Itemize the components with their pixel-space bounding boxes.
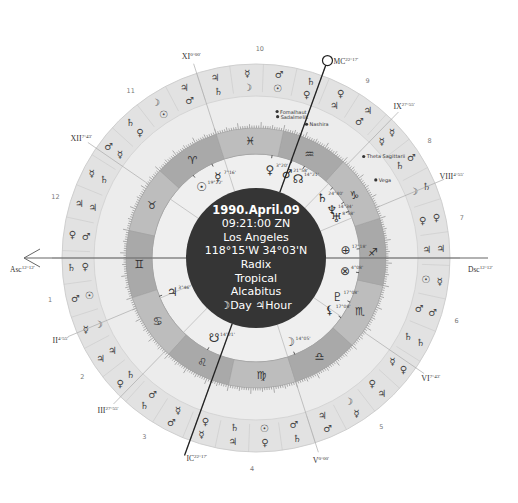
center-info-disc — [186, 188, 326, 328]
decan-glyph-icon: ♃ — [363, 105, 372, 116]
planet-mercury-icon: ☿ — [214, 170, 221, 184]
decan-glyph-icon: ♃ — [75, 198, 84, 209]
decan-glyph-icon: ☿ — [244, 68, 250, 79]
decan-glyph-icon: ☽ — [344, 396, 353, 407]
zodiac-sign-libra-icon: ♎ — [314, 350, 324, 363]
planet-degree-label: 3°46' — [178, 285, 190, 290]
decan-glyph-icon: ♂ — [428, 307, 437, 318]
house-cusp-label: VI7°43' — [421, 374, 440, 383]
decan-glyph-icon: ♂ — [104, 141, 113, 152]
house-number: 4 — [250, 465, 254, 473]
fixed-star-marker — [276, 115, 279, 118]
decan-glyph-icon: ♄ — [306, 76, 315, 87]
planet-sun-icon: ☉ — [196, 180, 207, 194]
decan-glyph-icon: ♃ — [228, 436, 237, 447]
zodiac-sign-aquarius-icon: ♒ — [305, 148, 315, 161]
fixed-star-marker — [276, 110, 279, 113]
planet-degree-label: 14°21' — [304, 172, 319, 177]
decan-glyph-icon: ♄ — [99, 174, 108, 185]
decan-glyph-icon: ☿ — [198, 429, 204, 440]
fixed-star-marker — [362, 155, 365, 158]
house-number: 3 — [142, 433, 146, 441]
planet-moon-icon: ☽ — [284, 335, 295, 349]
decan-glyph-icon: ☿ — [175, 405, 181, 416]
decan-glyph-icon: ♂ — [407, 152, 416, 163]
decan-glyph-icon: ☿ — [378, 136, 384, 147]
decan-glyph-icon: ☿ — [389, 127, 395, 138]
decan-glyph-icon: ☉ — [85, 290, 94, 301]
decan-glyph-icon: ♂ — [185, 95, 194, 106]
planet-degree-label: 14°05' — [296, 336, 311, 341]
zodiac-sign-taurus-icon: ♉ — [147, 199, 157, 212]
decan-glyph-icon: ☿ — [88, 168, 94, 179]
decan-glyph-icon: ♀ — [117, 378, 124, 389]
zodiac-sign-leo-icon: ♌ — [198, 356, 208, 369]
decan-glyph-icon: ♀ — [303, 89, 310, 100]
house-number: 6 — [454, 317, 458, 325]
decan-glyph-icon: ♀ — [136, 127, 143, 138]
decan-glyph-icon: ♃ — [436, 243, 445, 254]
decan-glyph-icon: ♃ — [377, 388, 386, 399]
decan-glyph-icon: ♂ — [82, 231, 91, 242]
decan-glyph-icon: ☉ — [260, 423, 269, 434]
decan-glyph-icon: ☉ — [421, 274, 430, 285]
house-number: 7 — [460, 214, 464, 222]
angle-label-mc: MC22°17' — [333, 57, 358, 66]
decan-glyph-icon: ♃ — [96, 353, 105, 364]
astrology-chart-wheel: ♈♉♊♋♌♍♎♏♐♑♒♓ ♂♃☉☽♀♄☿♂♄☿♃♃♂♀♀♄☉♂☽☿♃♃♄♀♂♄☿… — [0, 0, 518, 503]
planet-venus-icon: ♀ — [266, 163, 275, 177]
planet-vertex-icon: ⊗ — [340, 264, 350, 278]
decan-glyph-icon: ♂ — [71, 293, 80, 304]
decan-glyph-icon: ♀ — [202, 416, 209, 427]
decan-glyph-icon: ♀ — [369, 378, 376, 389]
fixed-star-label: Theta Sagittarii — [366, 153, 406, 160]
planet-degree-label: 24°40' — [328, 191, 343, 196]
planet-north-node-icon: ☊ — [293, 172, 304, 186]
house-cusp-label: IX27°55' — [393, 102, 414, 111]
house-number: 1 — [48, 296, 52, 304]
planet-degree-label: 17°08' — [336, 304, 351, 309]
fixed-star-label: Nashira — [310, 121, 329, 127]
decan-glyph-icon: ♄ — [230, 422, 239, 433]
planet-degree-label: 7°16' — [224, 170, 236, 175]
zodiac-sign-virgo-icon: ♍ — [257, 369, 267, 382]
fixed-star-label: Fomalhaut — [280, 109, 306, 115]
decan-glyph-icon: ♂ — [415, 303, 424, 314]
decan-glyph-icon: ♄ — [140, 400, 149, 411]
decan-glyph-icon: ♃ — [422, 244, 431, 255]
fixed-star-marker — [374, 178, 377, 181]
house-number: 10 — [256, 45, 264, 53]
decan-glyph-icon: ♀ — [419, 215, 426, 226]
house-number: 9 — [366, 77, 370, 85]
planet-south-node-icon: ☋ — [209, 331, 220, 345]
decan-glyph-icon: ☿ — [389, 356, 395, 367]
house-cusp-label: VIII4°55' — [439, 172, 463, 181]
zodiac-sign-scorpio-icon: ♏ — [355, 305, 365, 318]
planet-part-of-fortune-icon: ⊕ — [341, 243, 351, 257]
decan-glyph-icon: ♄ — [126, 369, 135, 380]
planet-mars-icon: ♂ — [282, 167, 293, 181]
house-number: 11 — [127, 87, 135, 95]
planet-degree-label: 14°34' — [338, 204, 353, 209]
decan-glyph-icon: ♄ — [404, 331, 413, 342]
decan-glyph-icon: ☉ — [273, 83, 282, 94]
angle-label-ic: IC22°17' — [187, 454, 207, 463]
decan-glyph-icon: ♀ — [82, 261, 89, 272]
decan-glyph-icon: ♂ — [323, 423, 332, 434]
decan-glyph-icon: ☉ — [159, 109, 168, 120]
house-number: 12 — [51, 193, 59, 201]
decan-glyph-icon: ♃ — [318, 410, 327, 421]
planet-degree-label: 17°18' — [352, 244, 367, 249]
decan-glyph-icon: ♂ — [289, 419, 298, 430]
house-number: 8 — [428, 137, 432, 145]
decan-glyph-icon: ♂ — [355, 116, 364, 127]
decan-glyph-icon: ♀ — [400, 364, 407, 375]
house-cusp-label: XII7°43' — [71, 134, 93, 143]
decan-glyph-icon: ☿ — [436, 276, 442, 287]
decan-glyph-icon: ♀ — [433, 212, 440, 223]
decan-glyph-icon: ♄ — [126, 117, 135, 128]
planet-pluto-icon: ♇ — [332, 290, 343, 304]
zodiac-sign-capricorn-icon: ♑ — [349, 189, 359, 202]
planet-uranus-icon: ♅ — [331, 211, 342, 225]
decan-glyph-icon: ♀ — [337, 88, 344, 99]
